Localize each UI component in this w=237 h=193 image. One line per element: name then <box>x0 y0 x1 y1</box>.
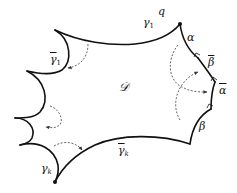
label-gamma1: γ1 <box>143 17 154 30</box>
label-beta-bar: β <box>208 57 214 68</box>
arrow-gamma-k-to-gamma-k-bar <box>54 143 82 150</box>
arrow-left-cusp <box>46 106 61 128</box>
label-beta: β <box>199 121 205 132</box>
arrow-beta-to-beta-bar <box>176 72 198 120</box>
label-vertex-q: q <box>158 6 165 17</box>
label-region-d: 𝒟 <box>119 81 129 93</box>
vertex-bottom <box>53 180 57 184</box>
label-gamma1-bar: γ1 <box>50 54 61 67</box>
diagram-canvas <box>0 0 237 193</box>
label-alpha-bar: α <box>219 85 226 96</box>
edge-gamma-k <box>20 144 58 182</box>
label-alpha: α <box>187 32 194 43</box>
edge-left-cusp-lower <box>15 118 33 145</box>
vertex-q <box>178 22 182 26</box>
right-angle-mark-3 <box>207 104 213 108</box>
edge-gamma1 <box>55 24 180 44</box>
edge-left-cusp-middle <box>15 71 45 118</box>
edge-gamma1-bar <box>27 30 69 74</box>
label-gamma-k-bar: γk <box>118 145 129 158</box>
label-gamma-k: γk <box>41 163 52 176</box>
arrow-gamma1-to-gamma1bar <box>68 44 88 68</box>
arrow-alpha-to-alpha-bar <box>170 45 207 92</box>
